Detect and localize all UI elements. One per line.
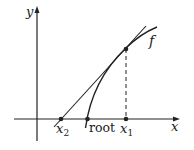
x1-label-sub: 1 xyxy=(128,128,134,138)
x2-label: x 2 xyxy=(56,121,69,138)
tangent-point xyxy=(124,47,129,52)
x1-label: x 1 xyxy=(120,121,133,138)
tangent-line xyxy=(54,26,146,127)
curve-label-f: f xyxy=(148,33,157,49)
y-axis-arrow-icon xyxy=(35,6,40,13)
function-curve-f xyxy=(86,27,158,128)
newton-method-diagram: y x f x 2 root x 1 xyxy=(0,0,194,150)
x-axis-label: x xyxy=(171,119,179,134)
y-axis-label: y xyxy=(25,4,34,19)
y-axis xyxy=(35,6,40,141)
x2-label-sub: 2 xyxy=(64,128,70,138)
root-label: root xyxy=(89,120,115,135)
